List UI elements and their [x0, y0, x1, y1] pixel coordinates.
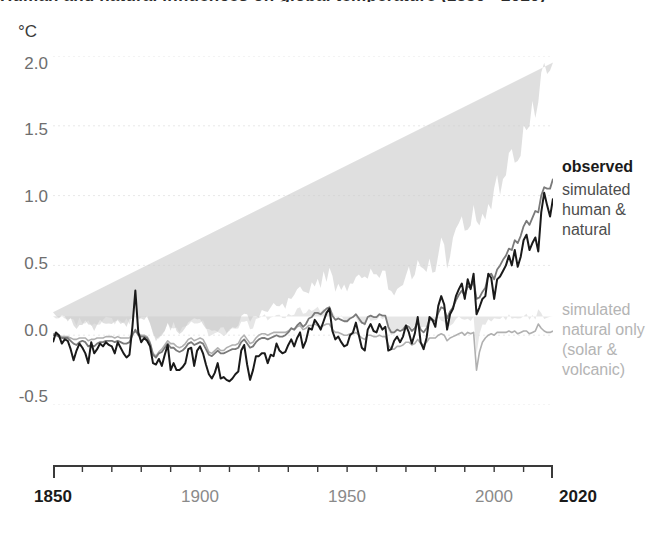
legend-simulated-human-natural: simulated human & natural	[562, 180, 630, 240]
legend-human-line-2: human &	[562, 200, 630, 220]
legend-human-line-1: simulated	[562, 180, 630, 200]
chart-figure: Human and natural influences on global t…	[0, 0, 656, 539]
x-axis-rule	[0, 0, 656, 539]
x-axis: 1850 1900 1950 2000 2020	[0, 0, 656, 539]
legend-natural-line-1: simulated	[562, 300, 645, 320]
legend-natural-line-2: natural only	[562, 320, 645, 340]
x-tick-1900: 1900	[181, 487, 219, 507]
x-tick-1850: 1850	[34, 487, 72, 507]
legend-natural-line-3: (solar &	[562, 340, 645, 360]
x-tick-2000: 2000	[475, 487, 513, 507]
legend-observed: observed	[562, 158, 633, 176]
x-tick-2020: 2020	[559, 487, 597, 507]
legend-simulated-natural-only: simulated natural only (solar & volcanic…	[562, 300, 645, 380]
legend-human-line-3: natural	[562, 220, 630, 240]
x-tick-1950: 1950	[328, 487, 366, 507]
legend-natural-line-4: volcanic)	[562, 360, 645, 380]
